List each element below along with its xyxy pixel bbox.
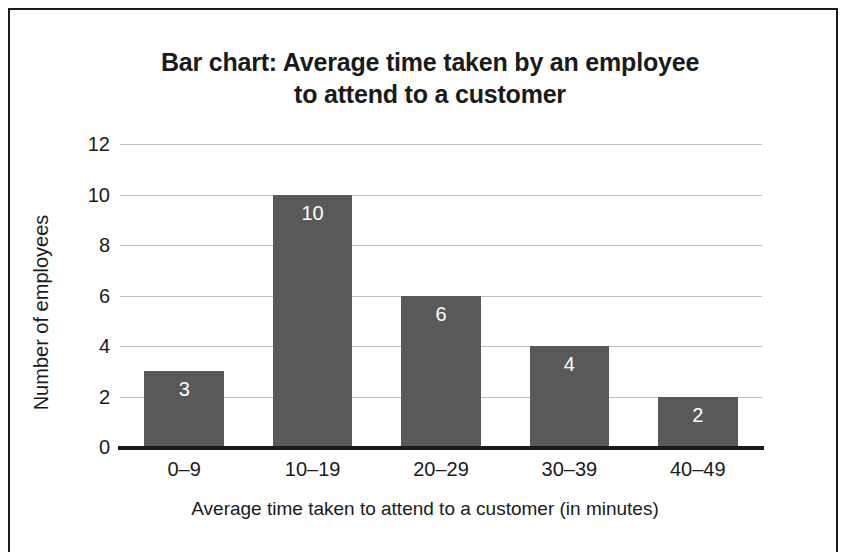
chart-title-line-2: to attend to a customer [110, 78, 750, 110]
chart-title: Bar chart: Average time taken by an empl… [110, 46, 750, 110]
y-axis-tick-label: 0 [60, 437, 110, 457]
y-axis-tick-label: 12 [60, 134, 110, 154]
y-axis-tick-label: 10 [60, 185, 110, 205]
y-axis-tick-label: 6 [60, 286, 110, 306]
x-axis-tick-label: 30–39 [505, 456, 633, 482]
y-axis-tick-label: 2 [60, 387, 110, 407]
bar[interactable]: 10 [273, 195, 353, 448]
bar-slot: 10 [248, 144, 376, 447]
x-axis-line [118, 446, 764, 450]
x-axis-title: Average time taken to attend to a custom… [80, 498, 770, 520]
y-axis-title: Number of employees [30, 193, 53, 433]
bar[interactable]: 3 [144, 371, 224, 447]
bar-series: 310642 [120, 144, 762, 447]
bar-value-label: 3 [144, 377, 224, 401]
bar[interactable]: 6 [401, 296, 481, 448]
bar[interactable]: 4 [530, 346, 610, 447]
x-axis-tick-label: 0–9 [120, 456, 248, 482]
x-axis-tick-label: 10–19 [248, 456, 376, 482]
bar-slot: 2 [634, 144, 762, 447]
y-axis-tick-label: 8 [60, 235, 110, 255]
bar-slot: 6 [377, 144, 505, 447]
chart-title-line-1: Bar chart: Average time taken by an empl… [110, 46, 750, 78]
bar-value-label: 2 [658, 403, 738, 427]
bar[interactable]: 2 [658, 397, 738, 448]
x-axis-tick-label: 20–29 [377, 456, 505, 482]
bar-value-label: 10 [273, 201, 353, 225]
bar-value-label: 6 [401, 302, 481, 326]
bar-slot: 4 [505, 144, 633, 447]
bar-slot: 3 [120, 144, 248, 447]
x-axis-tick-label: 40–49 [634, 456, 762, 482]
x-axis-tick-labels: 0–910–1920–2930–3940–49 [120, 456, 762, 486]
y-axis-tick-label: 4 [60, 336, 110, 356]
bar-value-label: 4 [530, 352, 610, 376]
y-axis-tick-labels: 024681012 [60, 144, 110, 447]
